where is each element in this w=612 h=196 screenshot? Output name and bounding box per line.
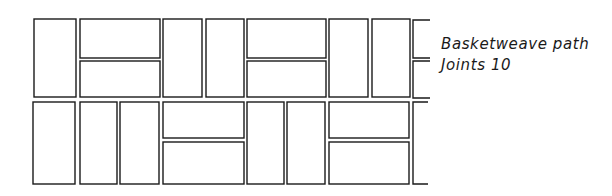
partial-brick-row1 bbox=[413, 20, 430, 58]
partial-brick-row2 bbox=[413, 102, 428, 184]
partial-brick-row1 bbox=[413, 61, 430, 98]
brick-vertical-row1 bbox=[206, 19, 244, 97]
brick-vertical-row2 bbox=[287, 102, 325, 184]
brick-vertical-row2 bbox=[80, 102, 117, 184]
paving-bricks bbox=[33, 19, 410, 184]
brick-vertical-row2 bbox=[247, 102, 284, 184]
brick-horizontal-row2 bbox=[163, 102, 244, 138]
brick-vertical-row2 bbox=[120, 102, 159, 184]
brick-horizontal-row2 bbox=[329, 102, 409, 138]
brick-horizontal-row2 bbox=[163, 142, 244, 184]
brick-horizontal-row1 bbox=[247, 61, 326, 97]
brick-horizontal-row1 bbox=[80, 61, 160, 97]
brick-vertical-row1 bbox=[329, 19, 368, 97]
brick-horizontal-row1 bbox=[80, 19, 160, 58]
basketweave-paving-drawing bbox=[0, 0, 612, 196]
brick-vertical-row2 bbox=[33, 102, 75, 184]
brick-vertical-row1 bbox=[372, 19, 410, 97]
caption-joints: Joints 10 bbox=[441, 55, 589, 76]
brick-vertical-row1 bbox=[34, 19, 76, 97]
caption-title: Basketweave path bbox=[441, 34, 589, 55]
brick-horizontal-row2 bbox=[329, 142, 409, 184]
drawing-caption: Basketweave path Joints 10 bbox=[441, 34, 589, 76]
brick-vertical-row1 bbox=[163, 19, 202, 97]
brick-horizontal-row1 bbox=[247, 19, 326, 58]
partial-bricks-cut-edge bbox=[413, 20, 430, 184]
